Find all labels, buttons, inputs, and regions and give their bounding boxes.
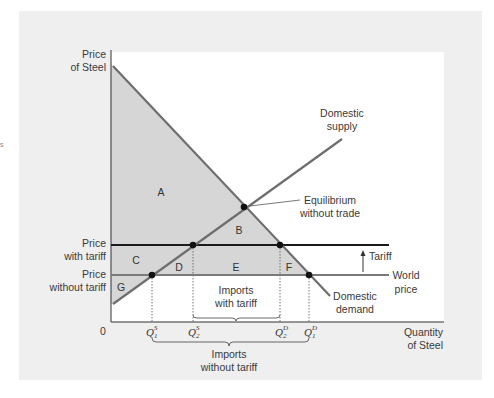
imports-with-tariff-label-1: Imports <box>218 284 253 296</box>
svg-text:Q: Q <box>275 326 283 338</box>
x-axis-label-2: of Steel <box>407 339 443 351</box>
x-axis-label-1: Quantity <box>404 326 444 338</box>
point-q1d <box>306 272 313 279</box>
world-price-label-1: World <box>392 269 419 281</box>
area-f-label: F <box>286 261 292 273</box>
supply-label-1: Domestic <box>320 107 364 119</box>
equilibrium-point <box>241 204 248 211</box>
area-c-label: C <box>132 254 140 266</box>
q2d-tick-label: Q 2 D <box>275 324 288 340</box>
demand-label-1: Domestic <box>333 290 377 302</box>
price-without-tariff-label-2: without tariff <box>49 281 106 293</box>
q1d-tick-label: Q 1 D <box>304 324 317 340</box>
q1d-sub: 1 <box>312 332 316 340</box>
price-with-tariff-label-2: with tariff <box>63 250 106 262</box>
q2s-sub: 2 <box>196 332 200 340</box>
area-d-label: D <box>175 261 183 273</box>
q1s-tick-label: Q 1 S <box>146 324 158 340</box>
world-price-label-2: price <box>395 283 418 295</box>
area-b-label: B <box>235 224 242 236</box>
equilibrium-label-1: Equilibrium <box>304 194 356 206</box>
imports-without-tariff-label-1: Imports <box>211 348 246 360</box>
q2s-sup: S <box>196 324 200 332</box>
svg-text:Q: Q <box>146 326 154 338</box>
svg-text:Q: Q <box>304 326 312 338</box>
imports-with-tariff-label-2: with tariff <box>214 297 257 309</box>
point-q1s <box>149 272 156 279</box>
point-q2d <box>277 242 284 249</box>
area-e-label: E <box>232 261 239 273</box>
svg-text:Q: Q <box>188 326 196 338</box>
q1s-sub: 1 <box>154 332 158 340</box>
point-q2s <box>190 242 197 249</box>
equilibrium-label-2: without trade <box>299 207 360 219</box>
area-g-label: G <box>117 281 125 293</box>
origin-label: 0 <box>100 325 106 337</box>
tariff-chart: Price of Steel Quantity of Steel 0 Price… <box>0 0 494 398</box>
y-axis-label-2: of Steel <box>70 61 106 73</box>
q1s-sup: S <box>154 324 158 332</box>
area-a-label: A <box>157 186 164 198</box>
tariff-label: Tariff <box>369 250 392 262</box>
price-without-tariff-label-1: Price <box>82 268 106 280</box>
q2s-tick-label: Q 2 S <box>188 324 200 340</box>
y-axis-label-1: Price <box>82 48 106 60</box>
q1d-sup: D <box>311 324 317 332</box>
price-with-tariff-label-1: Price <box>82 237 106 249</box>
supply-label-2: supply <box>327 120 358 132</box>
q2d-sup: D <box>282 324 288 332</box>
q2d-sub: 2 <box>283 332 287 340</box>
area-c-d-e-f <box>111 245 309 275</box>
imports-without-tariff-label-2: without tariff <box>200 361 257 373</box>
demand-label-2: demand <box>336 303 374 315</box>
